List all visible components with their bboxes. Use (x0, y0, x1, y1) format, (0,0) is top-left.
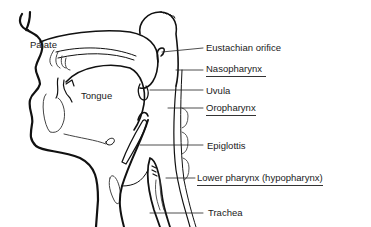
label-nasopharynx: Nasopharynx (206, 63, 266, 77)
label-epiglottis: Epiglottis (207, 140, 246, 151)
hyoid (64, 134, 106, 144)
label-eustachian-orifice: Eustachian orifice (206, 42, 281, 53)
anatomy-drawing (0, 0, 371, 227)
label-tongue: Tongue (81, 90, 112, 101)
epiglottis-shape (122, 120, 147, 164)
thyroid-oval (109, 176, 120, 204)
label-uvula: Uvula (206, 85, 230, 96)
label-lower-pharynx: Lower pharynx (hypopharynx) (197, 172, 323, 186)
cartilage-rings (152, 166, 157, 176)
label-palate: Palate (30, 39, 57, 50)
label-oropharynx: Oropharynx (206, 102, 256, 116)
conchae (50, 50, 70, 70)
mandible (43, 94, 65, 132)
label-trachea: Trachea (208, 207, 243, 218)
palate-inner (56, 48, 136, 60)
hyoid-oval (106, 138, 114, 145)
trachea-tube (148, 158, 170, 227)
pharynx-diagram: Palate Tongue Eustachian orifice Nasopha… (0, 0, 371, 227)
